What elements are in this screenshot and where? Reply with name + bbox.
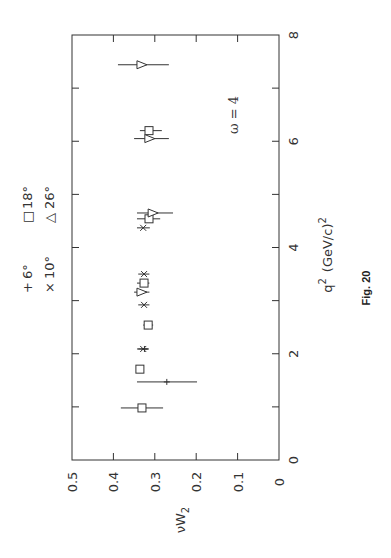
x-tick-label: 4 bbox=[286, 243, 301, 251]
legend-item-26deg: △ 26° bbox=[42, 186, 57, 223]
legend-label-18deg: 18° bbox=[20, 186, 35, 209]
figure-caption: Fig. 20 bbox=[360, 271, 372, 306]
y-tick-label: 0.3 bbox=[148, 472, 163, 493]
data-point-triangle bbox=[137, 288, 147, 296]
data-point-square bbox=[138, 404, 146, 412]
y-axis-ticks bbox=[113, 35, 237, 460]
x-axis-ticks bbox=[72, 88, 279, 407]
data-point-plus bbox=[141, 346, 147, 352]
x-axis-label: q2(GeV/c)2 bbox=[317, 217, 335, 293]
legend-symbol-triangle: △ bbox=[42, 213, 57, 223]
x-tick-labels: 02468 bbox=[286, 31, 301, 464]
legend-label-10deg: 10° bbox=[42, 256, 57, 279]
x-tick-label: 0 bbox=[286, 456, 301, 464]
legend-symbol-cross: × bbox=[42, 282, 57, 293]
y-tick-label: 0 bbox=[272, 478, 287, 486]
legend-label-6deg: 6° bbox=[20, 264, 35, 279]
data-point-square bbox=[145, 127, 153, 135]
legend-symbol-square: □ bbox=[20, 211, 35, 223]
x-tick-label: 6 bbox=[286, 137, 301, 145]
y-axis-label: νW2 bbox=[173, 507, 191, 534]
plot-area bbox=[72, 35, 279, 460]
chart: 02468 00.10.20.30.40.5 q2(GeV/c)2 νW2 ω … bbox=[0, 0, 391, 558]
x-tick-label: 2 bbox=[286, 350, 301, 358]
data-point-square bbox=[136, 365, 144, 373]
y-tick-label: 0.1 bbox=[231, 472, 246, 493]
error-bars bbox=[118, 65, 197, 408]
data-point-square bbox=[144, 321, 152, 329]
legend-symbol-plus: + bbox=[20, 282, 35, 293]
legend-item-6deg: + 6° bbox=[20, 264, 35, 293]
legend-item-18deg: □ 18° bbox=[20, 186, 35, 223]
y-tick-label: 0.5 bbox=[65, 472, 80, 493]
data-point-triangle bbox=[145, 135, 155, 143]
legend: + 6° × 10° □ 18° △ 26° bbox=[20, 186, 57, 293]
y-tick-label: 0.2 bbox=[189, 472, 204, 493]
data-point-plus bbox=[164, 379, 170, 385]
x-tick-label: 8 bbox=[286, 31, 301, 39]
y-tick-label: 0.4 bbox=[106, 472, 121, 493]
plot-frame bbox=[72, 35, 279, 460]
data-point-square bbox=[140, 279, 148, 287]
data-point-triangle bbox=[137, 61, 147, 69]
omega-annotation: ω = 4 bbox=[226, 96, 241, 134]
legend-label-26deg: 26° bbox=[42, 186, 57, 209]
legend-item-10deg: × 10° bbox=[42, 256, 57, 293]
data-markers bbox=[136, 61, 170, 412]
y-tick-labels: 00.10.20.30.40.5 bbox=[65, 472, 287, 493]
